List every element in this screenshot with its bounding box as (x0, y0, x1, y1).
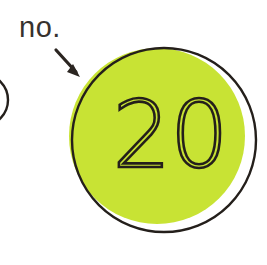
number-badge-value: 20 (118, 93, 222, 179)
screenshot-canvas: no. 20 (0, 0, 267, 265)
adjacent-badge-clipped (0, 73, 8, 126)
callout-label: no. (19, 13, 61, 42)
callout-arrow (56, 50, 80, 77)
adjacent-badge-outline (0, 74, 8, 126)
